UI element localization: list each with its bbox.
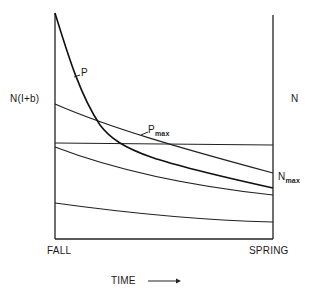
- x-axis-label: TIME: [111, 275, 136, 286]
- p-curve: [55, 13, 273, 188]
- pmax-label-main: P: [148, 124, 155, 135]
- pmax-label-sub: max: [155, 130, 170, 137]
- nmax-curve: [55, 104, 273, 173]
- nmax-label: Nmax: [278, 171, 300, 182]
- x-end-label: SPRING: [249, 245, 289, 256]
- x-start-label: FALL: [47, 245, 71, 256]
- y-right-label: N: [291, 93, 298, 104]
- pmax-label: Pmax: [148, 124, 170, 135]
- y-left-label: N(I+b): [10, 93, 39, 104]
- pmax-line: [55, 143, 273, 145]
- lower-curve-1: [55, 147, 273, 195]
- pmax-leader: [141, 132, 148, 135]
- time-arrowhead-icon: [176, 279, 181, 284]
- nmax-label-sub: max: [285, 177, 300, 184]
- lower-curve-2: [55, 203, 273, 222]
- p-label: P: [81, 67, 88, 78]
